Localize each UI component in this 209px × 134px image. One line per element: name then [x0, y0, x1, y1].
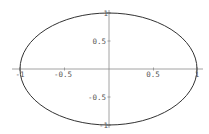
x-tick-label-05: 0.5: [146, 70, 160, 79]
y-tick-label-neg1: -1: [99, 121, 108, 130]
y-tick-label-05: 0.5: [92, 37, 106, 46]
x-tick-label-neg1: -1: [15, 70, 24, 79]
ellipse-plot: -1 -0.5 0.5 1 1 0.5 -0.5 -1: [0, 0, 209, 134]
x-tick-label-neg05: -0.5: [54, 70, 72, 79]
x-tick-label-1: 1: [195, 70, 200, 79]
y-tick-label-neg05: -0.5: [88, 93, 106, 102]
y-tick-label-1: 1: [103, 9, 108, 18]
